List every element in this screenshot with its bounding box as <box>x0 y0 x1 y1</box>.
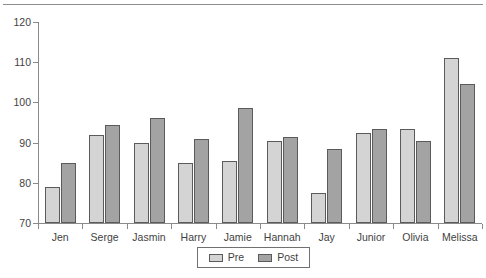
bar-jen-pre <box>45 187 60 223</box>
legend-entry-post: Post <box>258 252 298 263</box>
chart-legend: Pre Post <box>197 247 310 268</box>
x-axis-label-jamie: Jamie <box>216 231 260 243</box>
y-axis-tick-label-wrap: 100 <box>0 97 31 107</box>
x-axis-tick <box>438 224 439 229</box>
bar-melissa-post <box>460 84 475 223</box>
x-axis-tick <box>171 224 172 229</box>
bar-olivia-post <box>416 141 431 223</box>
bar-jamie-post <box>238 108 253 223</box>
top-divider-rule <box>3 4 483 5</box>
y-axis-tick-label-wrap: 70 <box>0 218 31 228</box>
y-axis-tick-label-wrap: 120 <box>0 17 31 27</box>
x-axis-label-jasmin: Jasmin <box>127 231 171 243</box>
y-axis-tick-label-wrap: 80 <box>0 178 31 188</box>
legend-swatch-pre-icon <box>209 254 223 262</box>
legend-swatch-post-icon <box>258 254 272 262</box>
bar-jamie-pre <box>222 161 237 223</box>
y-axis-tick-label: 90 <box>3 138 31 148</box>
legend-label-post: Post <box>277 252 298 263</box>
x-axis-tick <box>260 224 261 229</box>
bar-serge-pre <box>89 135 104 223</box>
x-axis-tick <box>82 224 83 229</box>
y-axis-tick-label-wrap: 110 <box>0 57 31 67</box>
bar-jen-post <box>61 163 76 223</box>
x-axis-label-harry: Harry <box>171 231 215 243</box>
y-axis-tick-label: 120 <box>3 17 31 27</box>
x-axis-label-serge: Serge <box>82 231 126 243</box>
bar-junior-pre <box>356 133 371 223</box>
bar-chart-figure: 708090100110120 JenSergeJasminHarryJamie… <box>0 0 486 278</box>
x-axis-tick <box>216 224 217 229</box>
y-axis-tick-label-wrap: 90 <box>0 138 31 148</box>
legend-entry-pre: Pre <box>209 252 244 263</box>
legend-label-pre: Pre <box>228 252 244 263</box>
x-axis-label-jay: Jay <box>304 231 348 243</box>
x-axis-label-melissa: Melissa <box>438 231 482 243</box>
plot-area <box>38 22 482 223</box>
bar-jay-post <box>327 149 342 223</box>
bar-hannah-post <box>283 137 298 223</box>
bar-harry-post <box>194 139 209 223</box>
bar-harry-pre <box>178 163 193 223</box>
bar-jasmin-pre <box>134 143 149 223</box>
y-axis-tick-label: 100 <box>3 97 31 107</box>
y-axis-tick-label: 70 <box>3 218 31 228</box>
bar-jasmin-post <box>150 118 165 223</box>
x-axis-label-olivia: Olivia <box>393 231 437 243</box>
y-axis-tick-label: 110 <box>3 57 31 67</box>
x-axis-tick <box>304 224 305 229</box>
x-axis-tick <box>482 224 483 229</box>
x-axis-tick <box>127 224 128 229</box>
bar-junior-post <box>372 129 387 223</box>
x-axis-tick <box>393 224 394 229</box>
x-axis-label-jen: Jen <box>38 231 82 243</box>
bar-serge-post <box>105 125 120 223</box>
y-axis-tick-label: 80 <box>3 178 31 188</box>
x-axis-tick <box>38 224 39 229</box>
bar-hannah-pre <box>267 141 282 223</box>
bar-melissa-pre <box>444 58 459 223</box>
bar-olivia-pre <box>400 129 415 223</box>
x-axis-label-hannah: Hannah <box>260 231 304 243</box>
bar-jay-pre <box>311 193 326 223</box>
x-axis-tick <box>349 224 350 229</box>
x-axis-label-junior: Junior <box>349 231 393 243</box>
